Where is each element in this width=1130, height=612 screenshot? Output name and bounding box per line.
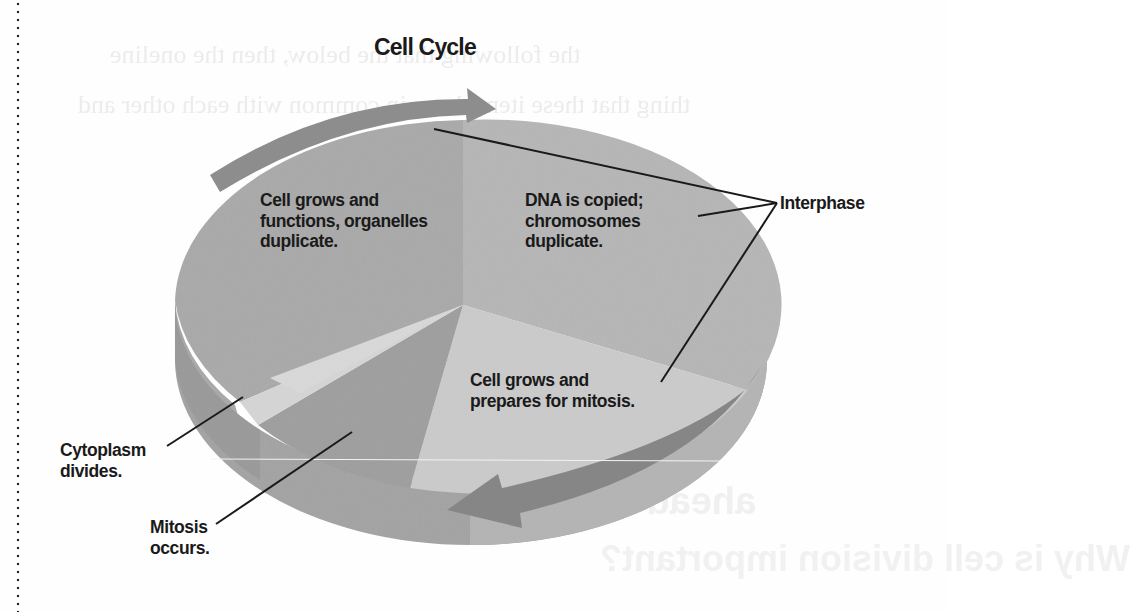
label-g2-phase: Cell grows and prepares for mitosis. [470,370,635,411]
label-interphase: Interphase [780,193,865,214]
label-cytokinesis: Cytoplasm divides. [60,440,146,481]
label-mitosis: Mitosis occurs. [150,517,209,558]
diagram-title: Cell Cycle [374,34,476,61]
label-s-phase: DNA is copied; chromosomes duplicate. [525,190,643,252]
label-g1-phase: Cell grows and functions, organelles dup… [260,190,428,252]
